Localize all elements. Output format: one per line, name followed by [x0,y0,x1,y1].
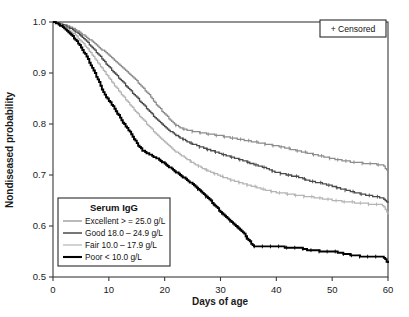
legend-label-good: Good 18.0 – 24.9 g/L [85,228,163,238]
x-tick-label: 60 [383,284,394,295]
x-tick-label: 50 [327,284,338,295]
x-tick-label: 30 [215,284,226,295]
series-line-2 [53,22,388,215]
y-axis-title: Nondiseased probability [4,91,15,208]
y-tick-label: 0.7 [33,169,46,180]
censored-box-label: + Censored [331,24,376,34]
x-axis-title: Days of age [192,296,249,307]
legend-label-excellent: Excellent > = 25.0 g/L [85,216,166,226]
censored-legend-box: + Censored [320,20,386,37]
y-tick-label: 0.6 [33,220,46,231]
series-line-0 [53,22,388,171]
legend: Serum IgG Excellent > = 25.0 g/L Good 18… [58,198,170,266]
chart-svg: 0.50.60.70.80.91.00102030405060 Nondisea… [0,0,409,317]
x-tick-label: 10 [104,284,115,295]
y-tick-label: 1.0 [33,16,46,27]
y-tick-label: 0.9 [33,67,46,78]
x-tick-label: 0 [50,284,55,295]
legend-label-poor: Poor < 10.0 g/L [85,252,142,262]
y-tick-label: 0.8 [33,118,46,129]
legend-label-fair: Fair 10.0 – 17.9 g/L [85,240,157,250]
x-tick-label: 40 [271,284,282,295]
survival-chart: 0.50.60.70.80.91.00102030405060 Nondisea… [0,0,409,317]
legend-title: Serum IgG [90,202,138,213]
x-tick-label: 20 [159,284,170,295]
y-tick-label: 0.5 [33,271,46,282]
